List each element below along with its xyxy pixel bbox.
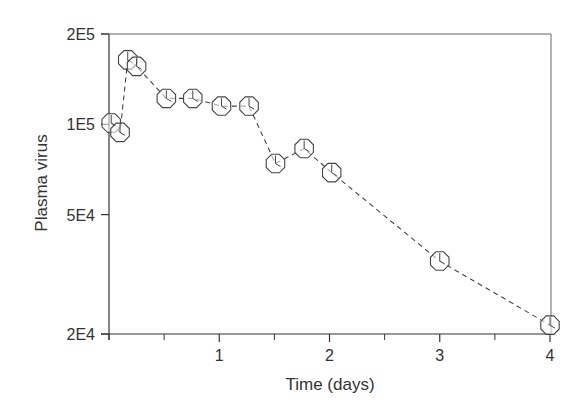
y-tick-label: 5E4	[67, 207, 96, 224]
octagon-marker-icon	[212, 97, 231, 115]
x-axis-label: Time (days)	[285, 375, 374, 394]
x-tick-label: 1	[215, 347, 224, 364]
y-axis-label: Plasma virus	[32, 134, 51, 231]
octagon-marker-icon	[127, 57, 146, 76]
y-axis: 2E51E55E42E4	[67, 26, 109, 343]
x-axis: 1234	[109, 334, 555, 364]
plot-frame	[101, 34, 551, 340]
octagon-marker-icon	[323, 163, 341, 182]
octagon-marker-icon	[240, 97, 258, 115]
octagon-marker-icon	[266, 154, 285, 173]
octagon-marker-icon	[295, 139, 314, 158]
octagon-marker-icon	[157, 89, 176, 107]
y-tick-label: 1E5	[67, 116, 96, 133]
x-tick-label: 3	[435, 347, 444, 364]
octagon-marker-icon	[541, 316, 559, 335]
x-tick-label: 4	[546, 347, 555, 364]
octagon-marker-icon	[184, 89, 202, 107]
x-tick-label: 2	[325, 347, 334, 364]
series-line	[111, 60, 550, 325]
data-series	[102, 51, 559, 335]
octagon-marker-icon	[111, 123, 130, 142]
plasma-virus-chart: 2E51E55E42E4 1234 Time (days) Plasma vir…	[0, 0, 583, 417]
y-tick-label: 2E4	[67, 326, 96, 343]
y-tick-label: 2E5	[67, 26, 96, 43]
octagon-marker-icon	[431, 252, 450, 270]
